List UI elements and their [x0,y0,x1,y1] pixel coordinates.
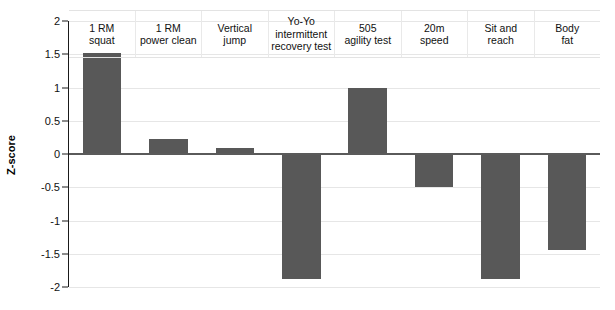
category-label-line: intermittent [271,28,331,41]
bar [149,139,187,154]
gridline [69,287,600,288]
category-label-line: recovery test [271,40,331,53]
gridline [69,187,600,188]
category-label-line: 20m [420,22,449,35]
bar [481,154,519,279]
y-axis-tick-label: 1.5 [45,48,60,60]
category-label-line: squat [89,34,115,47]
category-label-text: 505agility test [344,22,391,47]
category-label-line: agility test [344,34,391,47]
category-label-line: 1 RM [140,22,197,35]
category-label-line: reach [484,34,517,47]
category-label-text: 1 RMsquat [89,22,115,47]
category-label-line: jump [218,34,252,47]
category-label-text: 1 RMpower clean [140,22,197,47]
y-axis-title: Z-score [0,0,22,310]
category-label-line: 1 RM [89,22,115,35]
category-label: 20mspeed [402,11,469,57]
category-label-line: Body [555,22,579,35]
bar [83,53,121,154]
category-label-line: Sit and [484,22,517,35]
gridline [69,121,600,122]
y-axis-title-label: Z-score [5,135,17,175]
y-axis-tick-label: 1 [54,82,60,94]
category-label-line: speed [420,34,449,47]
y-axis-tick-label: -1 [50,215,60,227]
category-label: Bodyfat [535,11,601,57]
gridline [69,254,600,255]
category-label-text: Yo-Yointermittentrecovery test [271,15,331,53]
category-label-text: Sit andreach [484,22,517,47]
gridline [69,221,600,222]
y-axis-tick-label: 0.5 [45,115,60,127]
category-label: 1 RMsquat [69,11,136,57]
category-label: Yo-Yointermittentrecovery test [269,11,336,57]
zero-line [69,153,600,155]
bar [415,154,453,187]
category-label: Verticaljump [202,11,269,57]
category-label: 1 RMpower clean [136,11,203,57]
bar [348,88,386,155]
y-axis-tick-label: -0.5 [41,181,60,193]
category-label-line: Yo-Yo [271,15,331,28]
category-label-line: Vertical [218,22,252,35]
y-axis-tick-label: 0 [54,148,60,160]
y-axis-tick-label: -2 [50,281,60,293]
y-axis-tick-labels: 21.510.50-0.5-1-1.5-2 [22,0,68,310]
gridline [69,88,600,89]
bar [548,154,586,250]
plot-area [69,21,600,287]
category-label-line: power clean [140,34,197,47]
category-label: Sit andreach [468,11,535,57]
category-label-text: 20mspeed [420,22,449,47]
bar [282,154,320,279]
category-label-line: 505 [344,22,391,35]
category-label-table: 1 RMsquat1 RMpower cleanVerticaljumpYo-Y… [69,10,600,58]
category-label-line: fat [555,34,579,47]
category-label: 505agility test [335,11,402,57]
bar-chart: Z-score 21.510.50-0.5-1-1.5-2 1 RMsquat1… [0,0,615,310]
category-label-text: Verticaljump [218,22,252,47]
y-axis-tick-label: -1.5 [41,248,60,260]
category-label-text: Bodyfat [555,22,579,47]
y-axis-tick-label: 2 [54,15,60,27]
